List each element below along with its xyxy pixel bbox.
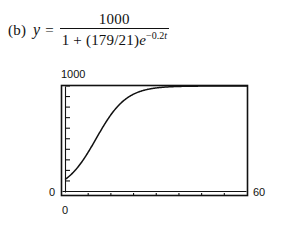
logistic-curve-line (66, 86, 248, 179)
x-axis-min-label: 0 (62, 204, 68, 216)
equation-exponent: −0.2t (146, 30, 167, 41)
equation-exponent-variable: t (164, 30, 167, 41)
plot-svg-canvas: 1000 0 0 60 (0, 58, 283, 228)
equation-part-label: (b) (8, 22, 26, 39)
equation-display: (b) y = 1000 1 + (179/21)e−0.2t (0, 0, 283, 60)
equation-denominator: 1 + (179/21)e−0.2t (60, 29, 169, 48)
logistic-curve-plot: 1000 0 0 60 (0, 58, 283, 228)
plot-frame (62, 86, 248, 196)
equation-exponent-coefficient: 0.2 (152, 30, 165, 41)
equation-denominator-prefix: 1 + (179/21) (62, 32, 140, 48)
equation-fraction: 1000 1 + (179/21)e−0.2t (60, 12, 169, 48)
equation-numerator: 1000 (95, 12, 134, 28)
equation-equals-sign: = (45, 22, 53, 39)
x-axis-max-label: 60 (253, 186, 265, 198)
y-axis-min-label: 0 (49, 186, 55, 198)
y-axis-ticks (66, 86, 71, 181)
equation-variable-y: y (33, 21, 40, 39)
y-axis-max-label: 1000 (61, 68, 85, 80)
